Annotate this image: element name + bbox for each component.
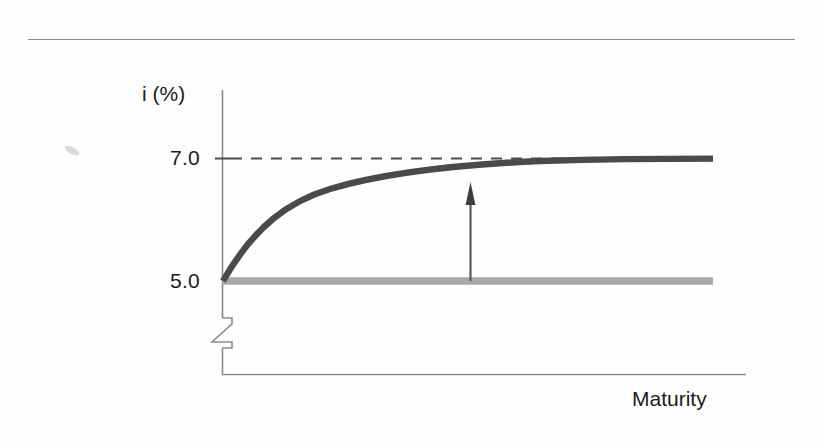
figure-container: i (%) 7.0 5.0 Maturity (0, 0, 821, 445)
upward-yield-curve (223, 159, 713, 281)
up-arrow-icon (466, 182, 476, 281)
y-tick-label-50: 5.0 (120, 269, 200, 293)
y-axis-title: i (%) (142, 82, 185, 106)
axis-break-icon (212, 318, 232, 348)
yield-curve-plot (0, 0, 821, 445)
y-tick-label-70: 7.0 (120, 146, 200, 170)
x-axis-title: Maturity (632, 387, 707, 411)
